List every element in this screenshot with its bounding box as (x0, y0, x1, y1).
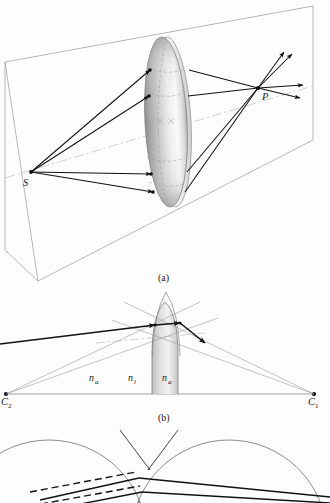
index-left-n: n (89, 372, 94, 383)
index-right-n: n (162, 372, 167, 383)
label-image-p: P (261, 91, 269, 102)
c1-sub: 1 (315, 402, 319, 410)
index-left-sub: a (95, 378, 99, 386)
index-lens-sub: l (134, 378, 136, 386)
index-lens-n: n (128, 372, 133, 383)
caption-b: (b) (158, 412, 170, 424)
optics-figure: S P (a) n a n l n a C 2 C 1 (b) (0, 0, 330, 503)
c2-sub: 2 (8, 402, 12, 410)
label-source-s: S (23, 177, 29, 188)
index-right-sub: a (168, 378, 172, 386)
caption-a: (a) (158, 272, 169, 284)
